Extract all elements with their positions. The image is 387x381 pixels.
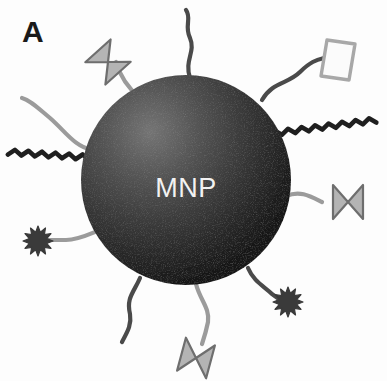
ligand-tether-tether-bottom-left-bare <box>122 278 140 342</box>
ligand-tether-bowtie-right <box>286 194 322 202</box>
ligand-tether-tether-left-bare <box>22 98 92 150</box>
ligand-tether-crimped-upper-right <box>268 118 376 135</box>
ligand-tether-crimped-mid-left <box>8 150 96 160</box>
panel-letter: A <box>22 15 44 48</box>
ligand-shape-starburst-left <box>23 226 53 256</box>
ligand-tether-tether-top-bare <box>186 10 192 78</box>
core-label: MNP <box>155 173 217 203</box>
ligand-shape-bowtie-bottom <box>177 338 215 379</box>
mnp-schematic-svg: MNP A <box>0 0 387 381</box>
ligand-tether-diamond-top-right <box>262 58 324 100</box>
figure-panel-a: MNP A <box>0 0 387 381</box>
ligand-shape-bowtie-right <box>333 185 363 219</box>
ligand-shape-starburst-bottom-right <box>273 287 303 317</box>
ligand-tether-bowtie-bottom <box>196 284 208 344</box>
ligand-shape-diamond-top-right <box>321 40 355 80</box>
